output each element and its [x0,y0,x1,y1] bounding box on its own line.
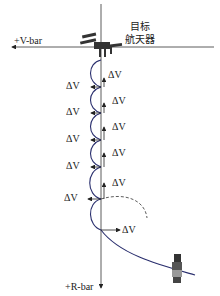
dv-right-label: ΔV [112,148,126,158]
dv-right-label: ΔV [112,122,126,132]
dv-left-label: ΔV [64,193,78,203]
dv-left-label: ΔV [66,107,80,117]
dv-right-label: ΔV [108,70,122,80]
dv-left-label: ΔV [66,81,80,91]
chaser-spacecraft-icon [172,254,182,283]
dv-final-label: ΔV [122,225,136,235]
target-spacecraft-label: 目标 航天器 [120,20,160,46]
dv-left-label: ΔV [66,134,80,144]
v-bar-label: +V-bar [14,36,42,46]
r-bar-label: +R-bar [65,282,93,292]
dv-right-label: ΔV [112,96,126,106]
target-label-line2: 航天器 [120,33,160,46]
dv-left-label: ΔV [66,161,80,171]
trajectory [90,60,195,275]
dv-right-label: ΔV [112,178,126,188]
target-label-line1: 目标 [120,20,160,33]
dashed-trajectory [101,196,147,218]
